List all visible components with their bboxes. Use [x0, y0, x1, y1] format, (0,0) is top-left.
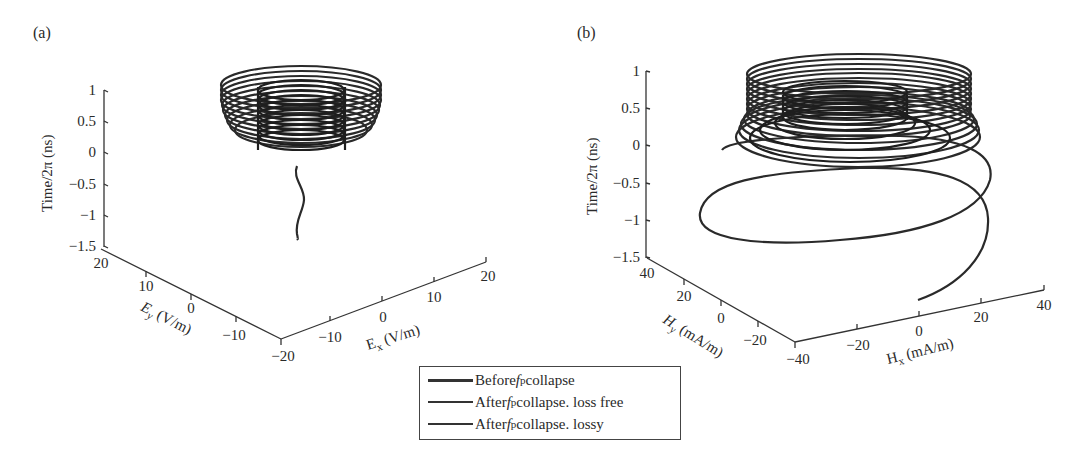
legend-item-before-collapse: Before fp collapse	[428, 370, 575, 390]
z-tick: 0.5	[77, 113, 96, 129]
corner-tick: −20	[271, 348, 294, 364]
z-tick: −1	[624, 212, 640, 228]
legend-item-after-collapse-lossy: After fp collapse. lossy	[428, 414, 604, 434]
y-tick: 0	[187, 300, 195, 316]
x-tick: 20	[481, 268, 496, 284]
x-tick: −10	[318, 329, 341, 345]
legend-item-after-collapse-loss-free: After fp collapse. loss free	[428, 392, 623, 412]
x-tick: 10	[427, 289, 442, 305]
legend-swatch	[428, 423, 473, 425]
y-tick: 0	[717, 310, 725, 326]
x-tick: 0	[379, 309, 387, 325]
panel-a-z-ticks: 1 0.5 0 −0.5 −1 −1.5	[69, 82, 108, 254]
z-tick: 0	[89, 144, 97, 160]
panel-b-before-collapse-spiral	[700, 136, 991, 300]
x-tick: 40	[1037, 297, 1052, 313]
y-tick: 10	[139, 278, 154, 294]
panel-b-z-ticks: 1 0.5 0 −0.5 −1 −1.5	[613, 63, 650, 265]
panel-b: (b) 1 0.5 0 −0.5 −1 −1.5 Time/2π (ns) 40…	[577, 24, 1052, 370]
panel-a-x-axis	[281, 262, 486, 339]
z-tick: −1	[80, 207, 96, 223]
panel-a-y-ticks: 20 10 0 −10	[94, 255, 246, 343]
panel-b-label: (b)	[577, 24, 596, 42]
legend-swatch	[428, 401, 473, 403]
y-tick: 20	[94, 255, 109, 271]
z-tick: 0.5	[621, 100, 640, 116]
y-tick: 40	[640, 265, 655, 281]
panel-b-y-label: Hy (mA/m)	[658, 310, 726, 363]
panel-a-before-collapse-trace	[296, 166, 304, 239]
z-tick: −1.5	[613, 249, 640, 265]
panel-a-x-label: Ex (V/m)	[364, 321, 422, 355]
x-tick: −20	[846, 337, 869, 353]
x-tick: 0	[915, 323, 923, 339]
z-tick: 1	[633, 63, 641, 79]
z-tick: −1.5	[69, 238, 96, 254]
corner-tick: −40	[786, 351, 809, 367]
panel-a: (a) 1 0.5 0 −0.5 −1 −1.5 Time/2π (ns) 20…	[33, 24, 496, 364]
z-tick: −0.5	[613, 175, 640, 191]
z-tick: 1	[89, 82, 97, 98]
z-tick: −0.5	[69, 176, 96, 192]
y-tick: −20	[743, 332, 766, 348]
panel-a-y-label: Ey (V/m)	[136, 298, 194, 340]
x-tick: 20	[974, 309, 989, 325]
y-tick: 20	[677, 288, 692, 304]
legend-swatch	[428, 379, 473, 382]
panel-b-x-label: Hx (mA/m)	[885, 335, 956, 370]
z-tick: 0	[633, 137, 641, 153]
panel-b-z-label: Time/2π (ns)	[584, 138, 601, 215]
y-tick: −10	[222, 327, 245, 343]
panel-a-z-label: Time/2π (ns)	[39, 135, 56, 212]
panel-a-label: (a)	[33, 24, 51, 42]
legend: Before fp collapse After fp collapse. lo…	[419, 366, 681, 440]
